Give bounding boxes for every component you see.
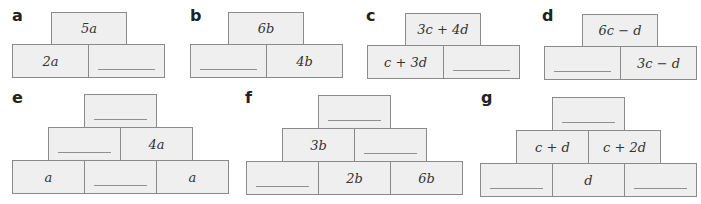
pyramid-c-bottom-left-box: c + 3d: [367, 45, 444, 79]
answer-blank-line[interactable]: [562, 122, 616, 123]
pyramid-c-top-box: 3c + 4d: [405, 13, 481, 46]
pyramid-f-label: f: [245, 88, 252, 107]
pyramid-g-middle-right-box: c + 2d: [588, 130, 661, 164]
pyramid-f-bottom-middle-box: 2b: [318, 161, 391, 195]
pyramid-f-middle-right-box[interactable]: [354, 128, 427, 162]
box-value: c + d: [535, 140, 570, 155]
pyramid-d-top-box: 6c − d: [582, 14, 658, 47]
pyramid-g-label: g: [481, 88, 492, 107]
answer-blank-line[interactable]: [364, 153, 418, 154]
pyramid-c-bottom-right-box[interactable]: [443, 45, 520, 79]
pyramid-e-middle-right-box: 4a: [120, 127, 193, 161]
box-value: 4b: [296, 54, 313, 69]
pyramid-f-middle-left-box: 3b: [282, 128, 355, 162]
pyramid-b-bottom-left-box[interactable]: [190, 44, 267, 78]
pyramid-a-bottom-left-box: 2a: [12, 44, 89, 78]
pyramid-g-bottom-left-box[interactable]: [480, 163, 553, 197]
answer-blank-line[interactable]: [94, 119, 148, 120]
pyramid-a-top-box: 5a: [51, 12, 127, 45]
pyramid-d-label: d: [542, 6, 553, 25]
pyramid-b-bottom-right-box: 4b: [266, 44, 343, 78]
box-value: 6b: [418, 171, 435, 186]
pyramid-d-bottom-left-box[interactable]: [544, 46, 621, 80]
answer-blank-line[interactable]: [554, 71, 611, 72]
box-value: a: [189, 170, 197, 185]
pyramid-e-bottom-middle-box[interactable]: [84, 160, 157, 194]
answer-blank-line[interactable]: [98, 69, 155, 70]
answer-blank-line[interactable]: [200, 69, 257, 70]
answer-blank-line[interactable]: [256, 186, 310, 187]
answer-blank-line[interactable]: [634, 188, 688, 189]
pyramid-e-bottom-left-box: a: [12, 160, 85, 194]
pyramid-f-bottom-right-box: 6b: [390, 161, 463, 195]
pyramid-e-bottom-right-box: a: [156, 160, 229, 194]
pyramid-b-top-box: 6b: [228, 12, 304, 45]
answer-blank-line[interactable]: [58, 152, 112, 153]
box-value: d: [584, 173, 592, 188]
pyramid-a-bottom-right-box[interactable]: [88, 44, 165, 78]
box-value: 3b: [310, 138, 327, 153]
pyramid-f-top-box[interactable]: [318, 95, 391, 129]
pyramid-g-middle-left-box: c + d: [516, 130, 589, 164]
pyramid-e-top-box[interactable]: [84, 94, 157, 128]
pyramid-g-bottom-right-box[interactable]: [624, 163, 697, 197]
pyramid-g-top-box[interactable]: [552, 97, 625, 131]
answer-blank-line[interactable]: [453, 70, 510, 71]
box-value: 6b: [258, 21, 275, 36]
box-value: 2b: [346, 171, 363, 186]
pyramid-d-bottom-right-box: 3c − d: [620, 46, 697, 80]
box-value: 5a: [81, 21, 97, 36]
pyramid-a-label: a: [12, 6, 23, 25]
box-value: c + 2d: [603, 140, 646, 155]
pyramid-c-label: c: [366, 6, 375, 25]
answer-blank-line[interactable]: [94, 185, 148, 186]
pyramid-e-middle-left-box[interactable]: [48, 127, 121, 161]
answer-blank-line[interactable]: [328, 120, 382, 121]
pyramid-e-label: e: [12, 88, 23, 107]
box-value: 2a: [42, 54, 58, 69]
box-value: c + 3d: [384, 55, 427, 70]
box-value: 6c − d: [598, 23, 641, 38]
box-value: 3c − d: [637, 56, 680, 71]
answer-blank-line[interactable]: [490, 188, 544, 189]
pyramid-g-bottom-middle-box: d: [552, 163, 625, 197]
box-value: a: [45, 170, 53, 185]
pyramid-b-label: b: [190, 6, 201, 25]
pyramid-f-bottom-left-box[interactable]: [246, 161, 319, 195]
box-value: 3c + 4d: [417, 22, 468, 37]
box-value: 4a: [148, 137, 164, 152]
